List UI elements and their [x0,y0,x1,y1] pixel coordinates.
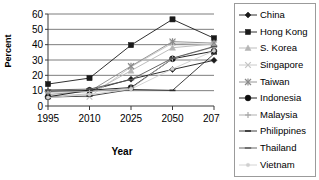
y-tick-label: 0 [37,101,43,112]
chart-area: Percent 0102030405060 199520102025205020… [0,0,222,180]
data-point-marker [45,81,50,86]
data-point-marker [212,49,216,53]
legend-item-label: Singapore [258,60,303,70]
legend-item-indonesia[interactable]: Indonesia [235,90,315,107]
legend-item-label: Malaysia [258,110,298,120]
x-tick-label: 2025 [120,113,143,124]
legend-item-s-korea[interactable]: S. Korea [235,40,315,57]
legend-item-china[interactable]: China [235,7,315,24]
data-point-marker [245,29,250,34]
data-point-marker [128,43,133,48]
plus-marker-icon [238,108,258,122]
x-tick-label: 2050 [161,113,184,124]
legend-item-label: Vietnam [258,160,295,170]
legend-item-taiwan[interactable]: Taiwan [235,73,315,90]
x-tick-marks [48,106,214,110]
line-chart-svg: 0102030405060 19952010202520502075 [22,8,220,140]
y-tick-label: 30 [32,55,44,66]
square-marker-icon [238,25,258,39]
data-point-marker [87,75,92,80]
data-point-marker [170,17,175,22]
legend-item-thailand[interactable]: Thailand [235,140,315,157]
y-axis-title: Percent [3,25,13,77]
legend-item-vietnam[interactable]: Vietnam [235,156,315,173]
y-tick-label: 60 [32,9,44,20]
x-tick-label: 1995 [37,113,60,124]
x-axis-title: Year [36,146,208,157]
y-tick-label: 20 [32,70,44,81]
legend-item-malaysia[interactable]: Malaysia [235,107,315,124]
dash-marker-icon [238,124,258,138]
data-point-marker [245,112,251,118]
x-tick-label: 2010 [78,113,101,124]
x-marker-icon [238,58,258,72]
triangle-marker-icon [238,41,258,55]
y-tick-label: 40 [32,39,44,50]
data-point-marker [245,95,251,101]
x-tick-label: 2075 [203,113,220,124]
data-point-marker [46,96,50,100]
data-point-marker [211,57,217,63]
data-point-marker [88,93,92,97]
y-tick-label: 50 [32,24,44,35]
legend-item-label: Philippines [258,126,306,136]
data-point-marker [129,87,133,91]
legend-item-label: Indonesia [258,93,301,103]
legend-item-philippines[interactable]: Philippines [235,123,315,140]
data-point-marker [246,163,250,167]
y-tick-labels: 0102030405060 [32,9,44,112]
legend-item-label: China [258,10,285,20]
data-point-marker [171,67,175,71]
legend-item-hong-kong[interactable]: Hong Kong [235,24,315,41]
legend-item-label: Thailand [258,143,296,153]
line-marker-icon [238,141,258,155]
legend-item-label: S. Korea [258,43,297,53]
y-tick-label: 10 [32,85,44,96]
plot-region: 0102030405060 19952010202520502075 [22,8,220,140]
legend-item-label: Hong Kong [258,27,308,37]
dot-marker-icon [238,158,258,172]
diamond-marker-icon [238,8,258,22]
chart-figure: Percent 0102030405060 199520102025205020… [0,0,319,180]
data-point-marker [245,12,251,18]
x-tick-labels: 19952010202520502075 [37,113,220,124]
legend-item-singapore[interactable]: Singapore [235,57,315,74]
legend-item-label: Taiwan [258,77,290,87]
chart-legend: ChinaHong KongS. KoreaSingaporeTaiwanInd… [234,3,316,177]
circle-marker-icon [238,91,258,105]
star-marker-icon [238,75,258,89]
